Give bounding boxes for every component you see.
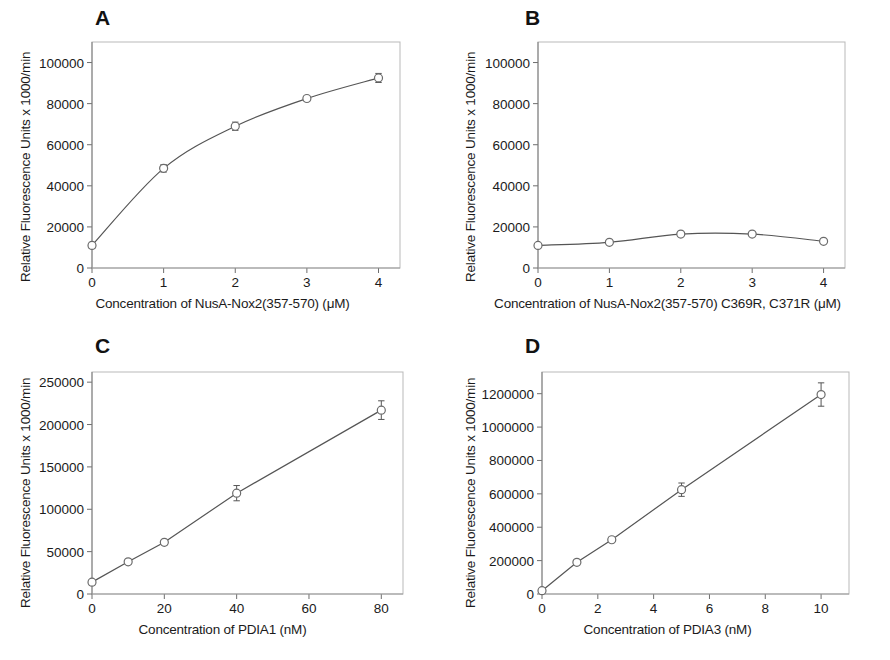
data-point-marker (573, 558, 581, 566)
x-axis-tick-label: 0 (88, 601, 96, 616)
x-axis-tick-label: 4 (820, 275, 828, 290)
y-axis-label: Relative Fluorescence Units x 1000/min (463, 378, 478, 608)
data-point-marker (160, 164, 168, 172)
x-axis-tick-label: 2 (231, 275, 239, 290)
data-point-marker (748, 230, 756, 238)
x-axis-label: Concentration of PDIA1 (nM) (0, 622, 445, 637)
data-point-marker (817, 391, 825, 399)
y-axis-tick-label: 50000 (0, 544, 84, 559)
y-axis-tick-label: 60000 (0, 137, 84, 152)
y-axis-tick-label: 80000 (0, 96, 84, 111)
panel-a: A02000040000600008000010000001234Concent… (0, 0, 445, 330)
data-point-marker (534, 241, 542, 249)
y-axis-tick-label: 100000 (0, 502, 84, 517)
x-axis-tick-label: 10 (814, 601, 829, 616)
y-axis-tick-label: 1200000 (445, 386, 534, 401)
data-point-marker (605, 238, 613, 246)
data-point-marker (538, 587, 546, 595)
y-axis-tick-label: 80000 (445, 96, 530, 111)
y-axis-label: Relative Fluorescence Units x 1000/min (18, 378, 33, 608)
panel-c: C050000100000150000200000250000020406080… (0, 330, 445, 660)
y-axis-tick-label: 400000 (445, 520, 534, 535)
x-axis-tick-label: 0 (534, 275, 542, 290)
x-axis-label: Concentration of NusA-Nox2(357-570) C369… (445, 296, 890, 311)
y-axis-label: Relative Fluorescence Units x 1000/min (18, 52, 33, 282)
y-axis-tick-label: 200000 (0, 417, 84, 432)
x-axis-label: Concentration of NusA-Nox2(357-570) (μM) (0, 296, 445, 311)
data-point-marker (375, 74, 383, 82)
x-axis-tick-label: 6 (706, 601, 714, 616)
panel-d: D020000040000060000080000010000001200000… (445, 330, 890, 660)
data-point-marker (160, 538, 168, 546)
x-axis-tick-label: 80 (374, 601, 389, 616)
x-axis-tick-label: 20 (157, 601, 172, 616)
y-axis-tick-label: 20000 (445, 219, 530, 234)
x-axis-tick-label: 3 (748, 275, 756, 290)
figure-container: A02000040000600008000010000001234Concent… (0, 0, 890, 660)
y-axis-tick-label: 0 (0, 587, 84, 602)
y-axis-tick-label: 100000 (0, 55, 84, 70)
plot-frame (92, 372, 403, 594)
y-axis-tick-label: 100000 (445, 55, 530, 70)
y-axis-tick-label: 0 (445, 261, 530, 276)
plot-frame (542, 372, 849, 594)
y-axis-tick-label: 60000 (445, 137, 530, 152)
x-axis-tick-label: 40 (229, 601, 244, 616)
x-axis-tick-label: 1 (160, 275, 168, 290)
data-point-marker (124, 558, 132, 566)
data-point-marker (377, 406, 385, 414)
x-axis-tick-label: 0 (538, 601, 546, 616)
y-axis-tick-label: 1000000 (445, 420, 534, 435)
data-point-marker (88, 578, 96, 586)
x-axis-tick-label: 4 (375, 275, 383, 290)
y-axis-tick-label: 0 (0, 261, 84, 276)
y-axis-label: Relative Fluorescence Units x 1000/min (463, 52, 478, 282)
y-axis-tick-label: 150000 (0, 459, 84, 474)
x-axis-tick-label: 2 (677, 275, 685, 290)
plot-frame (92, 42, 400, 268)
x-axis-tick-label: 3 (303, 275, 311, 290)
x-axis-tick-label: 4 (650, 601, 658, 616)
y-axis-tick-label: 250000 (0, 375, 84, 390)
y-axis-tick-label: 200000 (445, 553, 534, 568)
panel-b: B02000040000600008000010000001234Concent… (445, 0, 890, 330)
data-point-marker (303, 95, 311, 103)
y-axis-tick-label: 40000 (0, 178, 84, 193)
y-axis-tick-label: 20000 (0, 219, 84, 234)
y-axis-tick-label: 40000 (445, 178, 530, 193)
x-axis-tick-label: 60 (301, 601, 316, 616)
data-point-marker (233, 489, 241, 497)
data-point-marker (608, 536, 616, 544)
data-point-marker (820, 237, 828, 245)
data-series-line (92, 78, 379, 245)
y-axis-tick-label: 600000 (445, 486, 534, 501)
x-axis-tick-label: 0 (88, 275, 96, 290)
data-point-marker (677, 230, 685, 238)
y-axis-tick-label: 0 (445, 587, 534, 602)
y-axis-tick-label: 800000 (445, 453, 534, 468)
data-point-marker (88, 241, 96, 249)
x-axis-tick-label: 1 (606, 275, 614, 290)
data-point-marker (678, 486, 686, 494)
data-point-marker (231, 122, 239, 130)
x-axis-label: Concentration of PDIA3 (nM) (445, 622, 890, 637)
x-axis-tick-label: 2 (594, 601, 602, 616)
x-axis-tick-label: 8 (762, 601, 770, 616)
